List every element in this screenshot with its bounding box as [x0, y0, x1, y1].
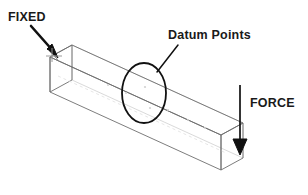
datum-point-mark [204, 127, 206, 129]
fixed-arrow [31, 26, 58, 58]
force-label: FORCE [250, 97, 295, 110]
fixed-label: FIXED [8, 11, 46, 24]
datum-point-mark [167, 109, 169, 111]
engineering-diagram: FIXED Datum Points FORCE [0, 0, 308, 195]
datum-points-label: Datum Points [168, 29, 251, 42]
datum-point-mark [144, 86, 146, 88]
datum-leader-line [157, 45, 178, 72]
force-arrow [233, 85, 247, 155]
datum-point-mark [107, 84, 109, 86]
beam-center-axis [58, 76, 226, 153]
hidden-edge-far-bottom [72, 80, 243, 158]
datum-point-mark [149, 107, 151, 109]
datum-point-mark [187, 119, 189, 121]
force-arrow-head [233, 139, 247, 155]
datum-point-mark [125, 92, 127, 94]
beam-top-face [50, 45, 243, 135]
